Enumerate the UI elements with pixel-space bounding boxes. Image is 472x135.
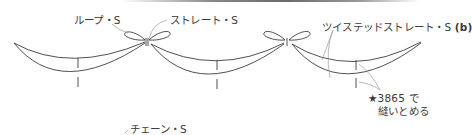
label-tack-line-1: ★3865 で: [368, 92, 419, 104]
leader-twisted-2: [328, 30, 333, 78]
leader-tack-2: [359, 82, 380, 90]
left-swag: [14, 42, 145, 87]
bow-1: [125, 31, 171, 46]
bow-2: [264, 31, 310, 46]
leader-chain-stitch: [125, 130, 128, 133]
middle-swag: [151, 43, 284, 89]
label-chain-stitch: チェーン・S: [130, 123, 187, 135]
twisted-stitch-suffix: (b): [455, 21, 472, 33]
leader-straight-stitch: [149, 20, 167, 39]
right-swag: [292, 42, 421, 88]
label-tack-line-2: 縫いとめる: [378, 105, 429, 117]
twisted-stitch-text: ツイステッドストレート・S: [322, 21, 451, 33]
label-twisted-straight-stitch: ツイステッドストレート・S (b): [322, 21, 472, 33]
label-straight-stitch: ストレート・S: [170, 14, 238, 26]
label-loop-stitch: ループ・S: [74, 14, 121, 26]
